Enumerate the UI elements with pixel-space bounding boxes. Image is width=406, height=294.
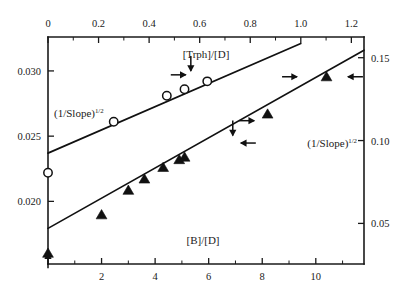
left-tick-label: 0.030 — [17, 66, 41, 77]
data-point-open-circle — [44, 168, 52, 176]
bottom-tick-label: 10 — [311, 271, 322, 282]
bottom-axis-label: [B]/[D] — [187, 234, 220, 246]
bottom-tick-label: 4 — [152, 271, 158, 282]
top-axis-label: [Trph]/[D] — [183, 48, 230, 60]
right-tick-label: 0.05 — [371, 218, 389, 229]
left-axis-tick-labels: 0.0200.0250.030 — [17, 66, 41, 207]
left-axis-ticks — [48, 71, 54, 201]
data-point-filled-triangle — [139, 174, 150, 183]
right-axis-ticks — [358, 58, 364, 224]
right-tick-label: 0.15 — [371, 53, 389, 64]
data-point-filled-triangle — [123, 185, 134, 194]
data-point-filled-triangle — [262, 109, 273, 118]
data-markers — [43, 72, 332, 258]
top-tick-label: 1.0 — [294, 18, 307, 29]
annotation-arrowhead-down — [187, 65, 194, 72]
top-tick-label: 0 — [45, 18, 50, 29]
fit-line-open-circles — [48, 44, 301, 154]
top-tick-label: 0.4 — [143, 18, 157, 29]
top-tick-label: 0.6 — [193, 18, 206, 29]
data-point-open-circle — [163, 92, 171, 100]
bottom-tick-label: 2 — [99, 271, 104, 282]
plot-frame — [48, 37, 364, 264]
annotation-arrowhead-right — [291, 73, 298, 80]
bottom-tick-label: 8 — [260, 271, 265, 282]
top-tick-label: 0.8 — [244, 18, 257, 29]
annotation-arrowhead-right — [180, 71, 187, 78]
chart-figure: 00.20.40.60.81.01.2 246810 0.0200.0250.0… — [0, 0, 406, 294]
right-axis-label: (1/Slope)1/2 — [307, 137, 357, 150]
right-axis-tick-labels: 0.050.100.15 — [371, 53, 389, 230]
right-tick-label: 0.10 — [371, 136, 389, 147]
top-axis-tick-labels: 00.20.40.60.81.01.2 — [45, 18, 358, 29]
data-point-open-circle — [203, 77, 211, 85]
top-axis-ticks — [48, 37, 351, 43]
data-point-open-circle — [180, 85, 188, 93]
data-point-filled-triangle — [158, 162, 169, 171]
data-point-open-circle — [110, 118, 118, 126]
bottom-axis-tick-labels: 246810 — [99, 271, 321, 282]
annotation-arrowhead-left — [347, 73, 354, 80]
left-tick-label: 0.025 — [17, 131, 41, 142]
bottom-tick-label: 6 — [206, 271, 211, 282]
annotation-arrowhead-down — [229, 130, 236, 137]
fit-lines — [48, 44, 364, 229]
top-tick-label: 0.2 — [92, 18, 105, 29]
annotation-arrowhead-right — [248, 117, 255, 124]
bottom-axis-ticks — [75, 258, 343, 264]
left-tick-label: 0.020 — [17, 196, 41, 207]
top-tick-label: 1.2 — [345, 18, 358, 29]
scatter-plot-svg: 00.20.40.60.81.01.2 246810 0.0200.0250.0… — [0, 0, 406, 294]
annotation-arrowhead-left — [240, 139, 247, 146]
left-axis-label: (1/Slope)1/2 — [54, 107, 104, 120]
data-point-filled-triangle — [96, 210, 107, 219]
